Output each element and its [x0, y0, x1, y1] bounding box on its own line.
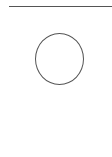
- top-rule-line: [9, 6, 112, 7]
- circle-shape: [35, 33, 84, 85]
